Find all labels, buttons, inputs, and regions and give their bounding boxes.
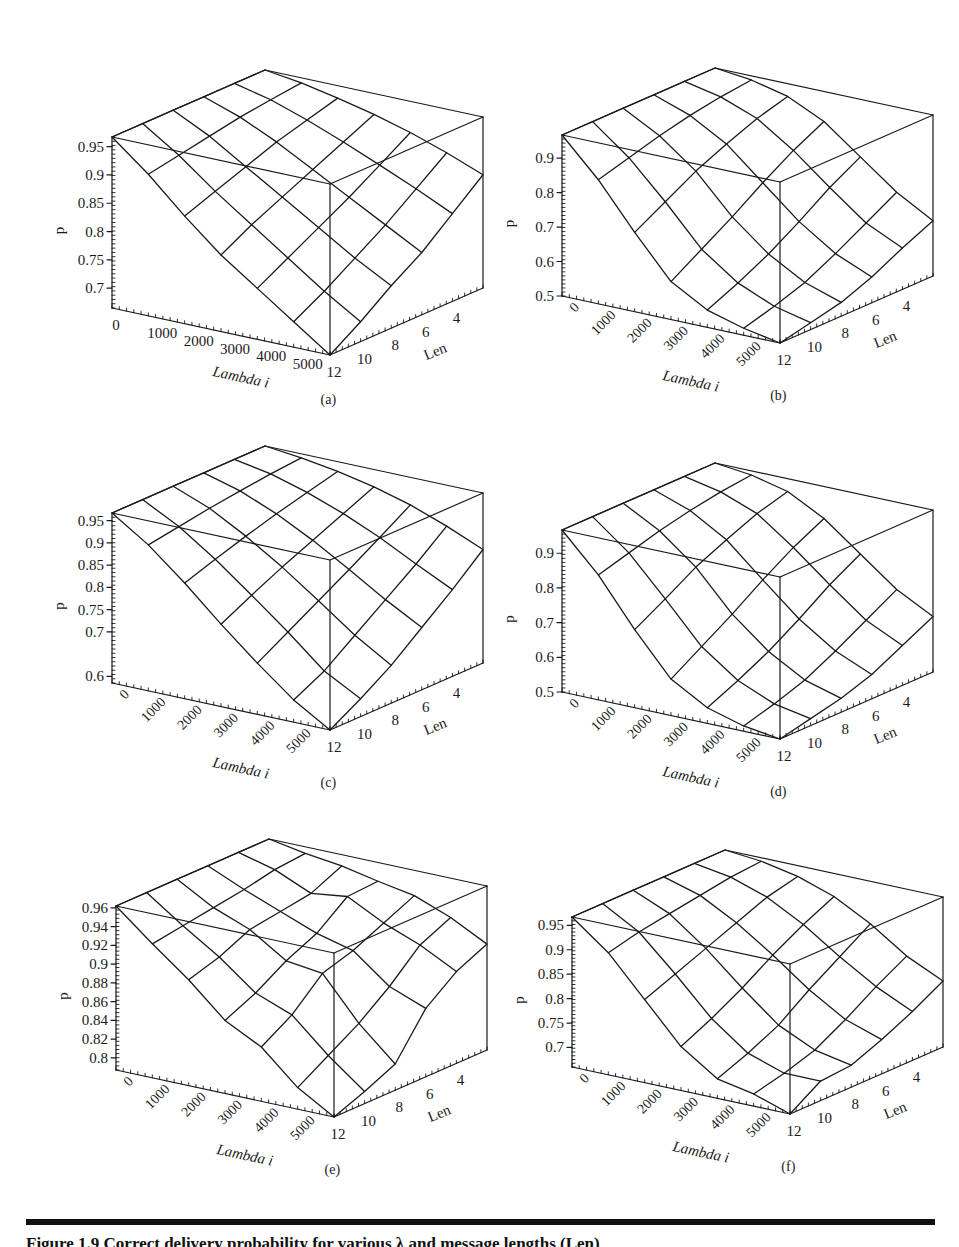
lambda-axis-title: Lambda i [210, 363, 270, 391]
surface-point [270, 99, 271, 100]
surface-point [690, 510, 691, 511]
len-axis-title: Len [421, 714, 449, 738]
surface-point [249, 929, 250, 930]
lambda-tick-label: 1000 [588, 307, 618, 337]
surface-line-lambda-6000 [330, 550, 483, 730]
lambda-tick-label: 3000 [661, 719, 691, 749]
surface-point [932, 616, 933, 617]
lambda-tick-label: 0 [121, 1074, 137, 1090]
surface-line-len-10 [143, 124, 361, 322]
surface-point [845, 1019, 846, 1020]
surface-point [804, 282, 805, 283]
surface-point [354, 257, 355, 258]
surface-point [234, 83, 235, 84]
surface-line-lambda-1000 [148, 83, 301, 174]
surface-point [238, 852, 239, 853]
surface-point [592, 121, 593, 122]
surface-point [707, 707, 708, 708]
len-tick-label: 6 [882, 1083, 890, 1099]
surface-point [245, 536, 246, 537]
surface-point [421, 627, 422, 628]
surface-point [902, 645, 903, 646]
z-axis-label: p [501, 220, 517, 228]
surface-point [680, 1046, 681, 1047]
panel-label: (f) [781, 1159, 795, 1175]
surface-point [379, 537, 380, 538]
surface-line-lambda-0 [116, 839, 269, 906]
surface-point [823, 518, 824, 519]
surface-point [280, 911, 281, 912]
surface-point [793, 547, 794, 548]
surface-point [287, 631, 288, 632]
z-tick-label: 0.9 [545, 942, 564, 958]
lambda-tick-label: 4000 [247, 718, 277, 748]
surface-point [634, 232, 635, 233]
z-tick-label: 0.88 [82, 975, 108, 991]
surface-point [486, 944, 487, 945]
figure-caption: Figure 1.9 Correct delivery probability … [26, 1232, 935, 1247]
surface-line-len-10 [593, 122, 811, 323]
surface-line-len-4 [694, 863, 912, 1011]
z-tick-label: 0.8 [85, 224, 104, 240]
len-tick-label: 8 [391, 712, 399, 728]
surface-line-len-4 [238, 852, 456, 971]
z-tick-label: 0.8 [535, 185, 554, 201]
surface-point [598, 574, 599, 575]
surface-point [146, 892, 147, 893]
box-edge [330, 117, 483, 184]
surface-point [360, 698, 361, 699]
surface-point [257, 288, 258, 289]
surface-point [896, 589, 897, 590]
surface-line-len-2 [725, 850, 943, 981]
surface-line-lambda-3000 [221, 487, 374, 624]
surface-line-len-10 [593, 517, 811, 719]
len-tick-label: 10 [817, 1110, 832, 1126]
surface-line-lambda-0 [572, 850, 725, 917]
surface-point [633, 890, 634, 891]
z-tick-label: 0.8 [89, 1050, 108, 1066]
surface-point [598, 179, 599, 180]
surface-line-lambda-6000 [790, 981, 943, 1114]
surface-point [305, 853, 306, 854]
lambda-tick-label: 1000 [142, 1081, 172, 1111]
surface-point [215, 559, 216, 560]
surface-point [209, 136, 210, 137]
z-tick-label: 0.6 [535, 254, 554, 270]
surface-point [329, 354, 330, 355]
surface-point [414, 895, 415, 896]
lambda-tick-label: 4000 [251, 1105, 281, 1135]
surface-point [337, 471, 338, 472]
lambda-tick-label: 5000 [293, 356, 323, 372]
surface-line-len-12 [562, 530, 780, 739]
surface-line-lambda-4000 [257, 505, 410, 663]
surface-line-lambda-5000 [744, 590, 897, 726]
surface-point [142, 499, 143, 500]
len-tick-label: 4 [453, 310, 461, 326]
surface-point [391, 665, 392, 666]
surface-line-lambda-2000 [189, 866, 342, 980]
panel-f: 0.950.90.850.80.750.7p010002000300040005… [511, 849, 944, 1175]
surface-point [173, 110, 174, 111]
surface-point [778, 1025, 779, 1026]
surface-point [701, 646, 702, 647]
z-tick-label: 0.86 [82, 994, 109, 1010]
lambda-tick-label: 2000 [624, 711, 654, 741]
surface-point [257, 663, 258, 664]
z-tick-label: 0.85 [78, 195, 104, 211]
surface-line-len-12 [572, 917, 790, 1114]
surface-point [561, 529, 562, 530]
lambda-tick-label: 5000 [283, 726, 313, 756]
z-tick-label: 0.5 [535, 684, 554, 700]
surface-point [224, 1020, 225, 1021]
surface-point [152, 943, 153, 944]
surface-point [219, 956, 220, 957]
z-tick-label: 0.85 [78, 557, 104, 573]
surface-point [264, 69, 265, 70]
surface-point [768, 253, 769, 254]
surface-point [341, 865, 342, 866]
z-tick-label: 0.75 [78, 252, 104, 268]
surface-point [203, 472, 204, 473]
surface-point [306, 492, 307, 493]
surface-point [743, 725, 744, 726]
surface-line-lambda-0 [112, 70, 265, 137]
